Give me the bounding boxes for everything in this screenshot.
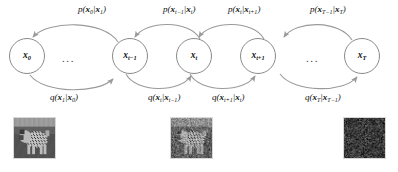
node-xt[interactable]: xt (176, 38, 212, 74)
label-p-xTm1-given-xT: p(xT−1|xT) (310, 5, 346, 14)
forward-arrow-xt-to-xtp1 (190, 74, 255, 89)
thumbnail-xT-pure-noise (343, 117, 386, 159)
node-xt-label: xt (191, 51, 198, 61)
node-x0[interactable]: x0 (9, 38, 45, 74)
node-xt-plus-1[interactable]: xt+1 (240, 38, 276, 74)
node-xt-plus-1-label: xt+1 (251, 51, 264, 61)
ellipsis-right: ... (306, 53, 319, 64)
node-xT[interactable]: xT (344, 38, 380, 74)
diffusion-chain-figure: x0 xt−1 xt xt+1 xT ... ... p(x0|x1) p(xt… (0, 0, 398, 172)
reverse-arrow-xT-to-xTm1 (284, 25, 352, 40)
node-xt-minus-1-label: xt−1 (123, 51, 136, 61)
reverse-arrow-xt-to-xtm1 (135, 24, 200, 39)
label-q-xtp1-given-xt: q(xt+1|xt) (212, 93, 244, 102)
forward-arrow-x0-to-x1 (30, 75, 113, 90)
forward-arrow-xTm1-to-xT (280, 74, 357, 89)
label-q-x1-given-x0: q(x1|x0) (50, 93, 78, 102)
ellipsis-left: ... (62, 53, 75, 64)
node-x0-label: x0 (23, 51, 31, 61)
reverse-arrow-x1-to-x0 (33, 25, 118, 42)
node-xt-minus-1[interactable]: xt−1 (112, 38, 148, 74)
reverse-arrow-xtp1-to-xt (199, 24, 264, 39)
thumbnail-x0-clean-image (13, 117, 56, 159)
label-q-xt-given-xtm1: q(xt|xt−1) (148, 93, 180, 102)
label-q-xT-given-xTm1: q(xT|xT−1) (305, 93, 341, 102)
label-p-xtm1-given-xt: p(xt−1|xt) (163, 5, 195, 14)
thumbnail-xt-noisy-image (170, 117, 213, 159)
forward-arrow-xtm1-to-xt (126, 74, 191, 89)
label-p-xt-given-xtp1: p(xt|xt+1) (228, 5, 260, 14)
label-p-x0-given-x1: p(x0|x1) (78, 5, 106, 14)
node-xT-label: xT (358, 51, 367, 61)
